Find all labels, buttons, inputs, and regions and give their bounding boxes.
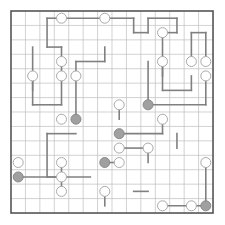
white-circle[interactable]	[57, 71, 67, 81]
gray-circle[interactable]	[114, 129, 124, 139]
puzzle-container	[0, 0, 225, 225]
white-circle[interactable]	[158, 114, 168, 124]
white-circle[interactable]	[100, 13, 110, 23]
white-circle[interactable]	[201, 158, 211, 168]
white-circle[interactable]	[186, 201, 196, 211]
gray-circle[interactable]	[143, 100, 153, 110]
masyu-puzzle-board[interactable]	[0, 0, 225, 225]
white-circle[interactable]	[100, 186, 110, 196]
white-circle[interactable]	[158, 57, 168, 67]
white-circle[interactable]	[57, 158, 67, 168]
white-circle[interactable]	[71, 71, 81, 81]
white-circle[interactable]	[114, 158, 124, 168]
white-circle[interactable]	[13, 158, 23, 168]
white-circle[interactable]	[57, 57, 67, 67]
white-circle[interactable]	[114, 143, 124, 153]
white-circle[interactable]	[114, 100, 124, 110]
gray-circle[interactable]	[201, 201, 211, 211]
white-circle[interactable]	[28, 71, 38, 81]
white-circle[interactable]	[57, 114, 67, 124]
gray-circle[interactable]	[71, 114, 81, 124]
white-circle[interactable]	[201, 71, 211, 81]
white-circle[interactable]	[143, 143, 153, 153]
white-circle[interactable]	[57, 13, 67, 23]
gray-circle[interactable]	[100, 158, 110, 168]
white-circle[interactable]	[57, 186, 67, 196]
white-circle[interactable]	[57, 172, 67, 182]
white-circle[interactable]	[201, 57, 211, 67]
white-circle[interactable]	[186, 57, 196, 67]
white-circle[interactable]	[158, 201, 168, 211]
white-circle[interactable]	[158, 28, 168, 38]
gray-circle[interactable]	[13, 172, 23, 182]
